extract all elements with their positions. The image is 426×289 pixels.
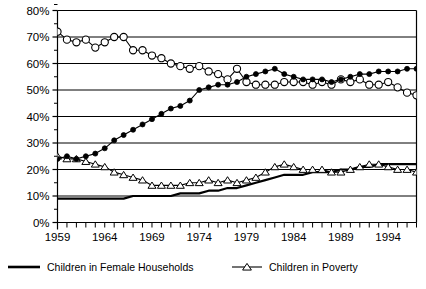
data-point [149,117,154,122]
data-point [244,74,249,79]
x-axis-tick-label: 1984 [281,231,307,243]
legend-label: Children in Female Households [47,261,194,273]
y-axis-tick-label: 0% [33,217,50,229]
y-axis-tick-label: 70% [26,31,49,43]
data-point [131,127,136,132]
data-point [225,82,230,87]
data-point [121,133,126,138]
data-point [112,138,117,143]
data-point [205,68,212,75]
data-point [111,33,118,40]
data-point [310,77,315,82]
data-point [139,47,146,54]
data-point [168,106,173,111]
y-axis-tick-labels: 0%10%20%30%40%50%60%70%80% [26,5,49,229]
line-chart: 0%10%20%30%40%50%60%70%80% 1959196419691… [0,0,426,289]
data-point [282,72,287,77]
x-axis-tick-label: 1994 [375,231,401,243]
data-point [140,122,145,127]
y-axis-tick-label: 20% [26,164,49,176]
y-axis-tick-label: 50% [26,84,49,96]
data-point [301,77,306,82]
data-point [83,154,88,159]
y-axis-tick-label: 60% [26,58,49,70]
data-point [366,81,373,88]
data-point [74,156,79,161]
data-point [338,77,343,82]
data-point [385,78,392,85]
data-point [375,81,382,88]
chart-background [0,0,426,289]
data-point [196,63,203,70]
data-point [357,72,362,77]
data-point [64,154,69,159]
data-point [233,65,240,72]
data-point [253,72,258,77]
data-point [367,72,372,77]
data-point [348,74,353,79]
data-point [386,69,391,74]
data-point [101,39,108,46]
data-point [206,85,211,90]
data-point [403,89,410,96]
chart-legend: Children in Female HouseholdsChildren in… [8,261,358,273]
data-point [82,36,89,43]
y-axis-tick-label: 10% [26,190,49,202]
legend-label: Children in Poverty [269,261,358,273]
data-point [73,39,80,46]
data-point [93,151,98,156]
data-point [158,55,165,62]
chart-container: 0%10%20%30%40%50%60%70%80% 1959196419691… [0,0,426,289]
data-point [394,84,401,91]
data-point [63,36,70,43]
data-point [197,88,202,93]
x-axis-tick-label: 1959 [45,231,71,243]
x-axis-tick-label: 1969 [139,231,165,243]
y-axis-tick-label: 40% [26,111,49,123]
data-point [102,146,107,151]
data-point [262,81,269,88]
data-point [235,80,240,85]
x-axis-tick-label: 1964 [92,231,118,243]
x-axis-tick-label: 1989 [328,231,354,243]
data-point [120,33,127,40]
data-point [159,111,164,116]
data-point [129,47,136,54]
data-point [395,69,400,74]
data-point [329,80,334,85]
data-point [177,63,184,70]
data-point [272,66,277,71]
data-point [252,81,259,88]
data-point [271,81,278,88]
data-point [216,82,221,87]
data-point [148,52,155,59]
y-axis-tick-label: 30% [26,137,49,149]
data-point [376,69,381,74]
x-axis-tick-label: 1979 [234,231,260,243]
data-point [291,74,296,79]
data-point [405,66,410,71]
data-point [178,103,183,108]
data-point [281,78,288,85]
y-axis-tick-label: 80% [26,5,49,17]
data-point [263,69,268,74]
data-point [92,44,99,51]
data-point [320,77,325,82]
x-axis-tick-label: 1974 [186,231,212,243]
data-point [167,60,174,67]
data-point [186,65,193,72]
data-point [187,98,192,103]
data-point [215,71,222,78]
